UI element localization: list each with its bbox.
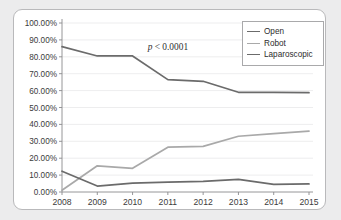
legend-swatch-open bbox=[247, 31, 260, 32]
chart-legend: Open Robot Laparoscopic bbox=[242, 21, 324, 66]
chart-card: 0.00%10.00%20.00%30.00%40.00%50.00%60.00… bbox=[13, 9, 326, 210]
y-axis-label: 10.00% bbox=[29, 171, 57, 180]
legend-swatch-laparoscopic bbox=[247, 54, 260, 55]
y-axis-label: 20.00% bbox=[29, 154, 57, 163]
y-axis-label: 60.00% bbox=[29, 87, 57, 96]
legend-label-open: Open bbox=[264, 27, 284, 36]
y-axis-label: 30.00% bbox=[29, 137, 57, 146]
legend-item-laparoscopic[interactable]: Laparoscopic bbox=[247, 49, 318, 61]
legend-label-laparoscopic: Laparoscopic bbox=[264, 50, 313, 59]
y-axis-label: 0.00% bbox=[34, 188, 57, 197]
y-axis-label: 80.00% bbox=[29, 53, 57, 62]
x-axis-label: 2013 bbox=[229, 197, 248, 207]
y-axis-label: 100.00% bbox=[25, 19, 57, 28]
x-axis-label: 2014 bbox=[264, 197, 283, 207]
legend-swatch-robot bbox=[247, 43, 260, 44]
legend-item-open[interactable]: Open bbox=[247, 26, 318, 38]
x-axis-label: 2015 bbox=[299, 197, 318, 207]
y-axis-label: 90.00% bbox=[29, 36, 57, 45]
p-value-annotation: p < 0.0001 bbox=[147, 42, 189, 52]
y-axis-label: 70.00% bbox=[29, 70, 57, 79]
y-axis-label: 40.00% bbox=[29, 120, 57, 129]
x-axis-label: 2010 bbox=[123, 197, 142, 207]
x-axis-label: 2012 bbox=[194, 197, 213, 207]
legend-item-robot[interactable]: Robot bbox=[247, 38, 318, 50]
y-axis-label: 50.00% bbox=[29, 104, 57, 113]
x-axis-label: 2009 bbox=[88, 197, 107, 207]
legend-label-robot: Robot bbox=[264, 39, 286, 48]
series-line-laparoscopic bbox=[62, 171, 309, 186]
x-axis-label: 2008 bbox=[52, 197, 71, 207]
x-axis-label: 2011 bbox=[159, 197, 178, 207]
